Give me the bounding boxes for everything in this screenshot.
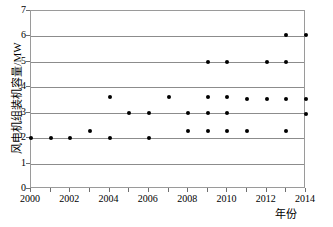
data-point <box>304 97 308 101</box>
x-axis-tick-label: 2012 <box>246 194 286 204</box>
x-axis-tick-mark <box>89 188 90 192</box>
data-point <box>206 60 210 64</box>
x-axis-tick-label: 2014 <box>285 194 325 204</box>
x-axis-tick-label: 2006 <box>128 194 168 204</box>
data-point <box>186 111 190 115</box>
x-axis-tick-mark <box>187 188 188 192</box>
data-point <box>68 136 72 140</box>
data-point <box>108 95 112 99</box>
gridline <box>31 36 304 37</box>
x-axis-tick-mark <box>207 188 208 192</box>
x-axis-tick-mark <box>246 188 247 192</box>
data-point <box>284 97 288 101</box>
data-point <box>245 97 249 101</box>
y-axis-tick-label: 1 <box>2 158 26 168</box>
y-axis-tick-label: 6 <box>2 30 26 40</box>
data-point <box>284 129 288 133</box>
data-point <box>304 33 308 37</box>
data-point <box>225 60 229 64</box>
x-axis-tick-mark <box>226 188 227 192</box>
data-point <box>206 111 210 115</box>
x-axis-tick-label: 2010 <box>206 194 246 204</box>
x-axis-tick-mark <box>305 188 306 192</box>
data-point <box>304 112 308 116</box>
data-point <box>147 111 151 115</box>
data-point <box>88 129 92 133</box>
y-axis-title: 风电机组装机容量/MW <box>9 18 25 178</box>
x-axis-tick-label: 2002 <box>49 194 89 204</box>
y-axis-tick-label: 0 <box>2 183 26 193</box>
x-axis-tick-mark <box>285 188 286 192</box>
x-axis-tick-mark <box>128 188 129 192</box>
data-point <box>225 111 229 115</box>
x-axis-tick-label: 2004 <box>89 194 129 204</box>
x-axis-tick-label: 2008 <box>167 194 207 204</box>
x-axis-tick-mark <box>266 188 267 192</box>
y-axis-tick-label: 7 <box>2 5 26 15</box>
gridline <box>31 164 304 165</box>
x-axis-tick-mark <box>50 188 51 192</box>
x-axis-title: 年份 <box>256 208 316 220</box>
y-axis-tick-label: 2 <box>2 132 26 142</box>
data-point <box>265 60 269 64</box>
data-point <box>206 95 210 99</box>
data-point <box>225 129 229 133</box>
gridline <box>31 62 304 63</box>
x-axis-tick-mark <box>148 188 149 192</box>
data-point <box>284 60 288 64</box>
gridline <box>31 87 304 88</box>
data-point <box>49 136 53 140</box>
y-axis-tick-label: 3 <box>2 107 26 117</box>
data-point <box>167 95 171 99</box>
data-point <box>206 129 210 133</box>
x-axis-tick-label: 2000 <box>10 194 50 204</box>
gridline <box>31 113 304 114</box>
data-point <box>147 136 151 140</box>
x-axis-tick-mark <box>109 188 110 192</box>
y-axis-tick-label: 4 <box>2 81 26 91</box>
y-axis-tick-label: 5 <box>2 56 26 66</box>
data-point <box>127 111 131 115</box>
wind-turbine-capacity-scatter-chart: 风电机组装机容量/MW 01234567 2000200220042006200… <box>0 0 333 227</box>
data-point <box>108 136 112 140</box>
data-point <box>186 129 190 133</box>
data-point <box>265 97 269 101</box>
x-axis-tick-mark <box>30 188 31 192</box>
data-point <box>29 136 33 140</box>
x-axis-tick-mark <box>168 188 169 192</box>
plot-area <box>30 10 305 188</box>
x-axis-tick-mark <box>69 188 70 192</box>
data-point <box>245 129 249 133</box>
data-point <box>225 95 229 99</box>
